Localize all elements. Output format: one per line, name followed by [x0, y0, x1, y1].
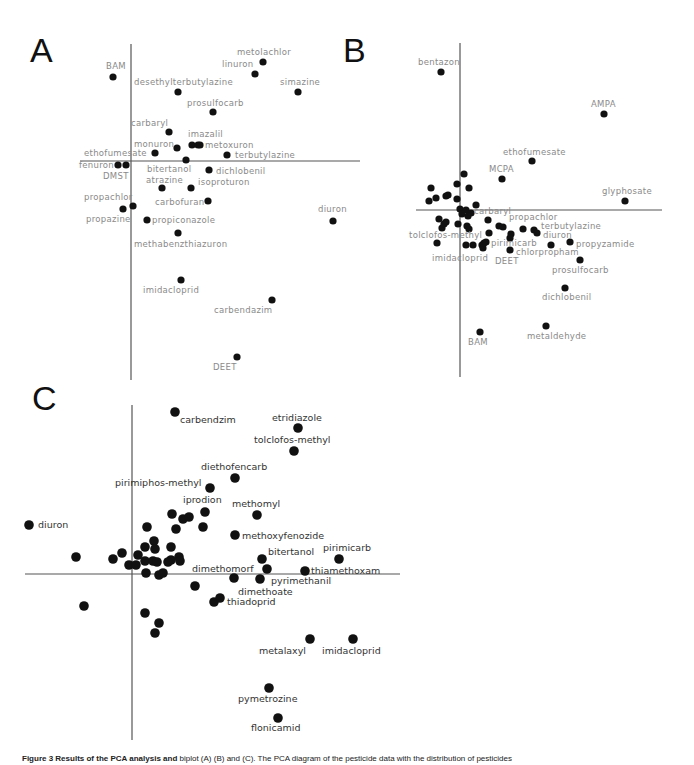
pca-figure: AmetolachlorlinuronBAMdesethylterbutylaz… [0, 0, 694, 765]
point-label: MCPA [489, 164, 514, 174]
data-point [289, 446, 299, 456]
data-point [262, 564, 272, 574]
data-point [462, 241, 469, 248]
data-point [150, 628, 160, 638]
point-label: terbutylazine [235, 150, 295, 160]
point-label: DEET [495, 256, 519, 266]
data-point [119, 205, 126, 212]
point-label: carbendazim [214, 305, 272, 315]
data-point [566, 238, 573, 245]
data-point [519, 225, 526, 232]
data-point [142, 522, 152, 532]
point-label: fenuron [79, 160, 114, 170]
point-label: DEET [213, 362, 237, 372]
panel-letter: C [32, 379, 57, 417]
data-point [177, 276, 184, 283]
data-point [205, 483, 215, 493]
point-label: desethylterbutylazine [134, 77, 233, 87]
data-point [433, 239, 440, 246]
data-point [432, 194, 439, 201]
data-point [173, 144, 180, 151]
point-label: pymetrozine [238, 693, 298, 704]
data-point [205, 166, 212, 173]
data-point [464, 212, 471, 219]
point-label: atrazine [146, 175, 183, 185]
point-label: ethofumesate [84, 148, 147, 158]
point-label: metolachlor [237, 47, 291, 57]
point-label: metoxuron [205, 140, 254, 150]
point-label: propyzamide [576, 239, 635, 249]
data-point [469, 241, 476, 248]
data-point [506, 246, 513, 253]
data-point [482, 238, 489, 245]
data-point [427, 184, 434, 191]
data-point [204, 197, 211, 204]
data-point [329, 217, 336, 224]
point-label: methabenzthiazuron [134, 239, 227, 249]
data-point [151, 149, 158, 156]
data-point [143, 216, 150, 223]
data-point [454, 220, 461, 227]
data-point [152, 557, 162, 567]
point-label: bentazon [418, 57, 460, 67]
panel-a-scatter: AmetolachlorlinuronBAMdesethylterbutylaz… [30, 31, 360, 380]
data-point [223, 151, 230, 158]
data-point [230, 473, 240, 483]
point-label: dichlobenil [216, 166, 265, 176]
data-point [484, 216, 491, 223]
point-label: bitertanol [268, 546, 314, 557]
data-point [334, 554, 344, 564]
caption-label: Figure 3 Results of the PCA analysis and [22, 754, 177, 763]
data-point [476, 328, 483, 335]
data-point [600, 110, 607, 117]
point-label: diethofencarb [201, 461, 267, 472]
data-point [170, 407, 180, 417]
data-point [175, 556, 185, 566]
data-point [184, 512, 194, 522]
data-point [268, 296, 275, 303]
point-label: pirimicarb [323, 542, 371, 553]
point-label: BAM [106, 61, 126, 71]
point-label: AMPA [591, 99, 616, 109]
data-point [167, 509, 177, 519]
data-point [460, 170, 467, 177]
data-point [425, 197, 432, 204]
data-point [294, 88, 301, 95]
data-point [198, 522, 208, 532]
data-point [154, 618, 164, 628]
data-point [465, 184, 472, 191]
data-point [437, 68, 444, 75]
point-label: methomyl [232, 498, 280, 509]
data-point [158, 184, 165, 191]
data-point [251, 70, 258, 77]
data-point [348, 634, 358, 644]
data-point [257, 554, 267, 564]
point-label: propachlor [84, 192, 133, 202]
point-label: isoproturon [198, 177, 250, 187]
panel-c-scatter: Ccarbendzimetridiazoletolclofos-methyldi… [24, 379, 400, 740]
data-point [621, 197, 628, 204]
data-point [171, 524, 181, 534]
data-point [561, 284, 568, 291]
data-point [187, 184, 194, 191]
data-point [174, 229, 181, 236]
point-label: dichlobenil [542, 292, 591, 302]
panel-letter: B [343, 31, 366, 69]
data-point [233, 353, 240, 360]
data-point [129, 202, 136, 209]
point-label: imidacloprid [143, 285, 199, 295]
point-label: pirimiphos-methyl [115, 477, 201, 488]
data-point [122, 161, 129, 168]
data-point [453, 195, 460, 202]
point-label: chlorpropham [516, 247, 579, 257]
data-point [182, 156, 189, 163]
data-point [140, 608, 150, 618]
point-label: glyphosate [602, 186, 652, 196]
data-point [79, 601, 89, 611]
data-point [165, 128, 172, 135]
data-point [109, 73, 116, 80]
data-point [150, 544, 160, 554]
data-point [498, 175, 505, 182]
point-label: imazalil [188, 129, 223, 139]
data-point [196, 141, 203, 148]
